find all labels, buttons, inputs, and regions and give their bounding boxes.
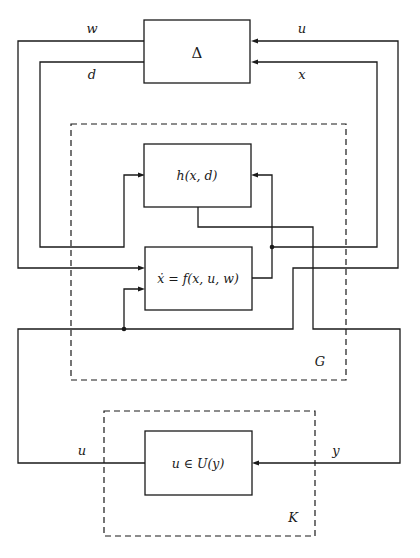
wire-d <box>40 62 144 247</box>
arrow-x-delta-icon <box>251 60 258 65</box>
delta-label: Δ <box>192 44 203 62</box>
junction-x-dot <box>270 245 275 250</box>
group-G-label: G <box>315 354 325 369</box>
arrow-u-f-icon <box>138 287 145 292</box>
wire-y <box>198 207 400 463</box>
signal-d-label: d <box>88 67 96 82</box>
h-label: h(x, d) <box>177 168 218 183</box>
wire-w <box>18 41 144 268</box>
f-label: ẋ = f(x, u, w) <box>157 271 239 286</box>
group-K-label: K <box>287 510 299 525</box>
wire-u-to-f <box>124 289 142 329</box>
signal-w-label: w <box>86 21 97 36</box>
block-diagram: Δ h(x, d) ẋ = f(x, u, w) u ∈ U(y) w d u … <box>0 0 420 558</box>
signal-x-label: x <box>298 67 306 82</box>
arrow-w-icon <box>138 266 145 271</box>
signal-u-bottom-label: u <box>78 443 86 458</box>
signal-y-label: y <box>331 443 340 458</box>
arrow-y-icon <box>252 461 259 466</box>
junction-u-dot <box>122 327 127 332</box>
arrow-x-h-icon <box>251 173 258 178</box>
arrow-u-delta-icon <box>251 39 258 44</box>
signal-u-top-label: u <box>298 21 306 36</box>
controller-label: u ∈ U(y) <box>172 456 225 471</box>
